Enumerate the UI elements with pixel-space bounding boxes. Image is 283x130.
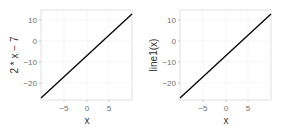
data-line [180,14,271,98]
x-tick-label: 5 [246,104,251,113]
gridlines [180,10,271,100]
y-axis-label: 2 * x − 7 [9,36,20,73]
y-axis-label: line1(x) [148,39,159,72]
y-tick-label: 10 [28,16,37,25]
y-tick-label: −10 [23,58,37,67]
line-chart-right: 10 0 −10 −20 −5 0 5 x line1(x) [139,0,283,130]
line-chart-left: 10 0 −10 −20 −5 0 5 x 2 * x − 7 [0,0,141,130]
x-axis-label: x [85,115,90,126]
y-tick-label: −20 [162,79,176,88]
y-tick-label: −10 [162,58,176,67]
gridlines [41,10,132,100]
y-tick-label: 10 [167,16,176,25]
chart-panel-right: 10 0 −10 −20 −5 0 5 x line1(x) [139,0,280,130]
y-tick-label: 0 [172,37,177,46]
x-tick-label: −5 [59,104,69,113]
plot-frame [180,10,271,100]
x-tick-label: 0 [85,104,90,113]
x-tick-label: 5 [107,104,112,113]
data-line [41,14,132,98]
x-axis-label: x [224,115,229,126]
x-tick-label: 0 [224,104,229,113]
x-tick-label: −5 [198,104,208,113]
y-tick-label: −20 [23,79,37,88]
chart-panel-left: 10 0 −10 −20 −5 0 5 x 2 * x − 7 [0,0,141,130]
plot-frame [41,10,132,100]
y-tick-label: 0 [33,37,38,46]
